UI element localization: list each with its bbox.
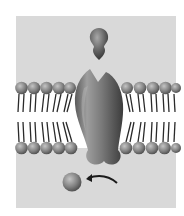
released-molecule [63,173,82,192]
membrane-receptor-diagram [0,0,184,216]
